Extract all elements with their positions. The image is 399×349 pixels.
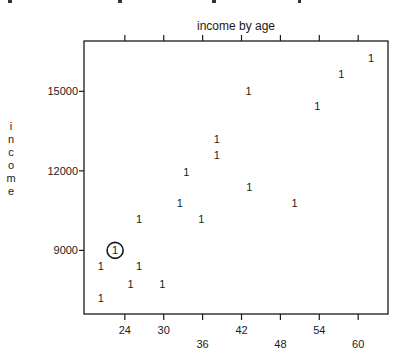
data-point: 1: [246, 85, 252, 97]
data-point: 1: [246, 181, 252, 193]
data-point: 1: [183, 166, 189, 178]
y-tick-label: 12000: [47, 165, 78, 177]
data-point: 1: [159, 278, 165, 290]
y-axis-label-letter: m: [6, 172, 15, 184]
data-point: 1: [292, 197, 298, 209]
x-tick-label: 24: [119, 324, 131, 336]
data-points: 111111111111111111: [98, 52, 374, 304]
x-tick-label: 60: [352, 338, 364, 349]
x-axis: 24304254364860: [119, 35, 365, 349]
y-axis-label-letter: c: [8, 146, 14, 158]
x-tick-label: 54: [313, 324, 325, 336]
data-point: 1: [112, 244, 118, 256]
data-point: 1: [198, 213, 204, 225]
data-point: 1: [214, 133, 220, 145]
data-point: 1: [98, 292, 104, 304]
data-point: 1: [98, 260, 104, 272]
y-axis-label-letter: e: [8, 185, 14, 197]
data-point: 1: [177, 197, 183, 209]
scatter-chart: income by age income 90001200015000 2430…: [0, 0, 399, 349]
y-tick-label: 9000: [54, 244, 78, 256]
y-axis-label-letter: n: [8, 133, 14, 145]
y-axis-label-letter: o: [8, 159, 14, 171]
y-axis: 90001200015000: [47, 85, 84, 256]
data-point: 1: [128, 278, 134, 290]
y-tick-label: 15000: [47, 85, 78, 97]
x-tick-label: 48: [274, 338, 286, 349]
data-point: 1: [136, 260, 142, 272]
y-axis-label-letter: i: [10, 120, 12, 132]
y-axis-label: income: [6, 120, 15, 197]
data-point: 1: [314, 100, 320, 112]
x-tick-label: 36: [196, 338, 208, 349]
x-tick-label: 42: [235, 324, 247, 336]
data-point: 1: [368, 52, 374, 64]
chart-title: income by age: [197, 19, 275, 33]
plot-frame: [84, 41, 388, 314]
x-tick-label: 30: [158, 324, 170, 336]
data-point: 1: [136, 213, 142, 225]
data-point: 1: [338, 68, 344, 80]
data-point: 1: [214, 149, 220, 161]
